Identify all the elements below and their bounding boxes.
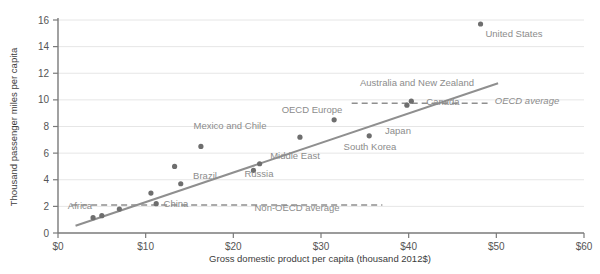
x-axis-ticks: $0$10$20$30$40$50$60 (52, 233, 592, 252)
chart-canvas: $0$10$20$30$40$50$60 0246810121416 Unite… (0, 0, 600, 274)
data-point (148, 190, 153, 195)
data-point (257, 161, 262, 166)
plot-frame (58, 18, 584, 233)
data-point (198, 144, 203, 149)
data-point (478, 21, 483, 26)
data-point (117, 206, 122, 211)
series-annotation: Brazil (193, 170, 217, 181)
x-tick-label: $30 (313, 241, 330, 252)
series-annotation: South Korea (344, 141, 398, 152)
series-annotation: Russia (244, 168, 274, 179)
series-annotation: Japan (385, 125, 411, 136)
series-annotation: Middle East (270, 150, 320, 161)
data-point (404, 103, 409, 108)
data-point (409, 99, 414, 104)
x-tick-label: $0 (52, 241, 64, 252)
y-axis-title: Thousand passenger miles per capita (8, 47, 19, 206)
y-tick-label: 2 (43, 201, 49, 212)
series-annotation: United States (485, 28, 542, 39)
x-tick-label: $40 (400, 241, 417, 252)
point-annotations: United StatesAustralia and New ZealandOE… (68, 28, 559, 213)
data-point (367, 133, 372, 138)
data-point (172, 164, 177, 169)
series-annotation: Australia and New Zealand (360, 77, 474, 88)
series-annotation: China (164, 198, 190, 209)
series-annotation: Mexico and Chile (194, 120, 267, 131)
y-axis-ticks: 0246810121416 (38, 15, 58, 239)
y-tick-label: 14 (38, 41, 50, 52)
y-tick-label: 12 (38, 68, 50, 79)
series-annotation: OECD average (495, 95, 559, 106)
data-point (332, 117, 337, 122)
series-annotation: OECD Europe (282, 104, 343, 115)
y-tick-label: 8 (43, 121, 49, 132)
y-tick-label: 0 (43, 228, 49, 239)
data-point (90, 215, 95, 220)
series-annotation: Africa (68, 200, 93, 211)
x-tick-label: $60 (576, 241, 593, 252)
data-point (297, 135, 302, 140)
series-annotation: Non-OECD average (254, 202, 339, 213)
y-tick-label: 4 (43, 174, 49, 185)
data-point (154, 201, 159, 206)
x-tick-label: $50 (488, 241, 505, 252)
y-tick-label: 6 (43, 148, 49, 159)
x-tick-label: $10 (137, 241, 154, 252)
data-point (178, 181, 183, 186)
scatter-chart: $0$10$20$30$40$50$60 0246810121416 Unite… (0, 0, 600, 274)
data-points (90, 21, 483, 220)
x-tick-label: $20 (225, 241, 242, 252)
x-axis-title: Gross domestic product per capita (thous… (209, 253, 431, 264)
y-tick-label: 16 (38, 15, 50, 26)
series-annotation: Canada (426, 96, 460, 107)
y-tick-label: 10 (38, 94, 50, 105)
data-point (99, 213, 104, 218)
